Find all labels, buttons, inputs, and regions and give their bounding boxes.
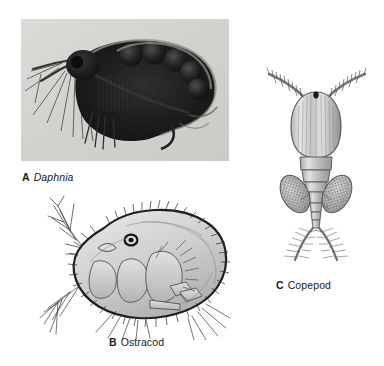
panel-name-b: Ostracod <box>121 336 164 348</box>
ostracod-posterior-setae-left <box>40 284 82 334</box>
figure-root: ADaphnia <box>0 0 384 366</box>
copepod-antenna-left <box>267 68 305 100</box>
ostracod-drawing <box>30 192 240 340</box>
copepod-eye <box>313 92 318 99</box>
panel-letter-c: C <box>276 279 284 291</box>
copepod-drawing <box>255 62 377 262</box>
ostracod-posterior-setae-right <box>188 304 230 340</box>
panel-letter-a: A <box>22 171 30 183</box>
copepod-antenna-right <box>327 68 366 100</box>
caption-copepod: CCopepod <box>276 280 331 291</box>
panel-name-a: Daphnia <box>34 171 74 183</box>
panel-letter-b: B <box>109 336 117 348</box>
copepod-urosome <box>309 192 323 228</box>
caption-ostracod: BOstracod <box>109 337 164 348</box>
panel-daphnia <box>21 19 229 161</box>
copepod-caudal-rami <box>284 228 348 260</box>
panel-ostracod <box>30 192 240 340</box>
caption-daphnia: ADaphnia <box>22 172 74 183</box>
daphnia-photo <box>21 19 229 161</box>
panel-copepod <box>255 62 377 262</box>
panel-name-c: Copepod <box>288 279 331 291</box>
